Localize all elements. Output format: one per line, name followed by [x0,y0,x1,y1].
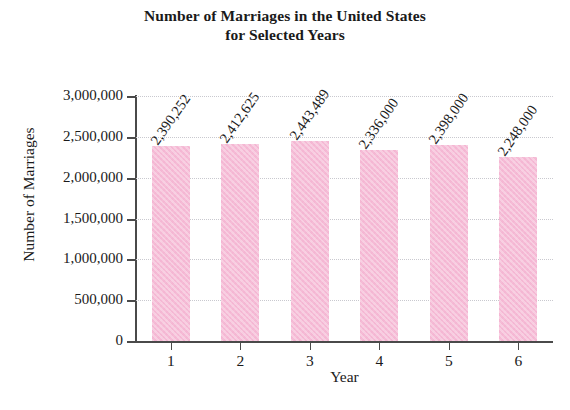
x-axis-tick [518,342,519,350]
y-axis-tick [127,300,136,302]
x-axis-tick [449,342,450,350]
bar [221,144,259,341]
gridline [136,300,553,301]
bottom-caption [0,404,570,410]
y-axis-tick-label: 500,000 [19,292,123,307]
y-axis-tick [127,259,136,261]
y-axis-tick [127,178,136,180]
gridline [136,96,553,97]
bar [430,145,468,341]
x-axis-tick [379,342,380,350]
x-axis-tick-label: 3 [290,352,330,369]
x-axis-tick [310,342,311,350]
gridline [136,259,553,260]
y-axis-tick [127,341,136,343]
x-axis-tick [171,342,172,350]
y-axis-tick-label: 3,000,000 [19,88,123,103]
bar-chart-figure: Number of Marriages in the United States… [0,0,570,410]
bar [291,141,329,341]
y-axis-tick [127,96,136,98]
gridline [136,137,553,138]
bar [360,150,398,341]
x-axis-tick-label: 1 [151,352,191,369]
y-axis-tick [127,137,136,139]
x-axis-line [135,341,553,343]
gridline [136,219,553,220]
x-axis-title: Year [136,368,553,385]
x-axis-tick-label: 4 [359,352,399,369]
y-axis-tick-label: 0 [19,333,123,348]
plot-area [136,96,553,341]
bar [499,157,537,341]
bar [152,146,190,341]
x-axis-tick-label: 5 [429,352,469,369]
x-axis-tick-label: 2 [220,352,260,369]
gridline [136,178,553,179]
y-axis-tick [127,219,136,221]
y-axis-title: Number of Marriages [20,105,37,285]
x-axis-tick [240,342,241,350]
x-axis-tick-label: 6 [498,352,538,369]
